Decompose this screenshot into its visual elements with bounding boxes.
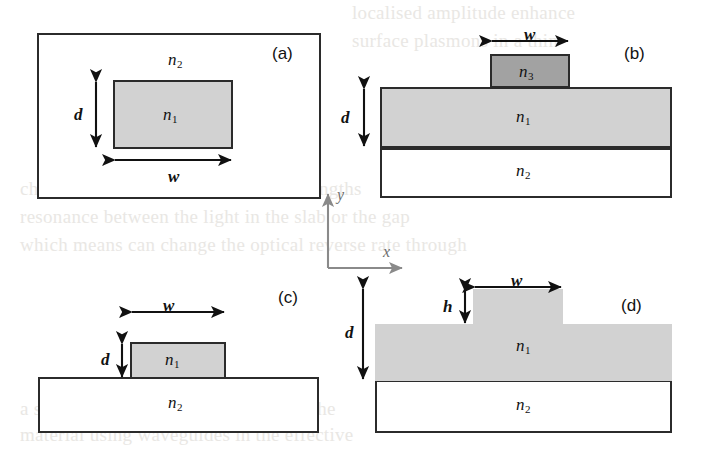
panel-d-letter: (d) — [621, 296, 642, 316]
panel-c-letter: (c) — [278, 288, 298, 308]
panel-a-letter: (a) — [272, 44, 293, 64]
ghost-text-line-4: resonance between the light in the slab … — [20, 206, 410, 228]
ghost-text-line-1: localised amplitude enhance — [352, 2, 575, 24]
panel-d-dimension-d-label: d — [345, 323, 354, 343]
panel-d-dimension-w-label: w — [511, 271, 522, 291]
panel-b-dimension-d-label: d — [341, 108, 350, 128]
panel-b-film-index-label: n1 — [516, 107, 530, 127]
panel-c-dimension-w-label: w — [163, 296, 174, 316]
panel-b-dimension-w-label: w — [524, 25, 535, 45]
panel-a-cladding-index-label: n2 — [168, 50, 182, 70]
panel-b-substrate-index-label: n2 — [516, 161, 530, 181]
panel-d-core-index-label: n1 — [516, 336, 530, 356]
panel-c-core-index-label: n1 — [165, 350, 179, 370]
panel-c-dimension-d-label: d — [101, 350, 110, 370]
panel-d-dimension-h-label: h — [443, 297, 452, 317]
panel-b-letter: (b) — [624, 44, 645, 64]
y-axis-label: y — [337, 186, 344, 204]
panel-a-dimension-d-label: d — [74, 105, 83, 125]
panel-a-dimension-w-label: w — [168, 167, 179, 187]
panel-a-core-index-label: n1 — [163, 105, 177, 125]
panel-c-substrate-index-label: n2 — [168, 393, 182, 413]
ghost-text-line-5: which means can change the optical rever… — [20, 234, 467, 256]
panel-b-strip-index-label: n3 — [519, 62, 533, 82]
panel-d-substrate-index-label: n2 — [516, 395, 530, 415]
waveguide-figure: localised amplitude enhance surface plas… — [0, 0, 705, 462]
x-axis-label: x — [383, 243, 390, 261]
